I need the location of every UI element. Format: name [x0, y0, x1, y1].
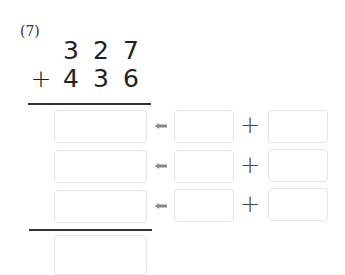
result-input-2[interactable] — [54, 150, 147, 183]
result-input-1[interactable] — [54, 110, 147, 143]
digit: 4 — [56, 64, 86, 93]
sum-line-top — [28, 103, 151, 105]
left-input-2[interactable] — [174, 150, 234, 183]
arrow-left-icon — [155, 203, 167, 209]
right-input-3[interactable] — [268, 188, 328, 221]
total-input[interactable] — [54, 235, 147, 275]
right-input-2[interactable] — [268, 149, 328, 182]
left-input-3[interactable] — [174, 189, 234, 222]
digit: 6 — [116, 64, 146, 93]
plus-icon: + — [240, 113, 260, 137]
left-input-1[interactable] — [174, 110, 234, 143]
plus-operator: + — [26, 64, 56, 93]
result-input-3[interactable] — [54, 190, 147, 223]
addend-1: 327 — [56, 36, 146, 65]
right-input-1[interactable] — [268, 110, 328, 143]
digit: 7 — [116, 36, 146, 65]
arrow-left-icon — [155, 163, 167, 169]
digit: 3 — [86, 64, 116, 93]
addend-2: +436 — [26, 64, 146, 93]
digit: 2 — [86, 36, 116, 65]
sum-line-bottom — [29, 229, 152, 231]
plus-icon: + — [240, 192, 260, 216]
problem-label: (7) — [20, 23, 40, 39]
arrow-left-icon — [155, 123, 167, 129]
plus-icon: + — [240, 153, 260, 177]
digit: 3 — [56, 36, 86, 65]
